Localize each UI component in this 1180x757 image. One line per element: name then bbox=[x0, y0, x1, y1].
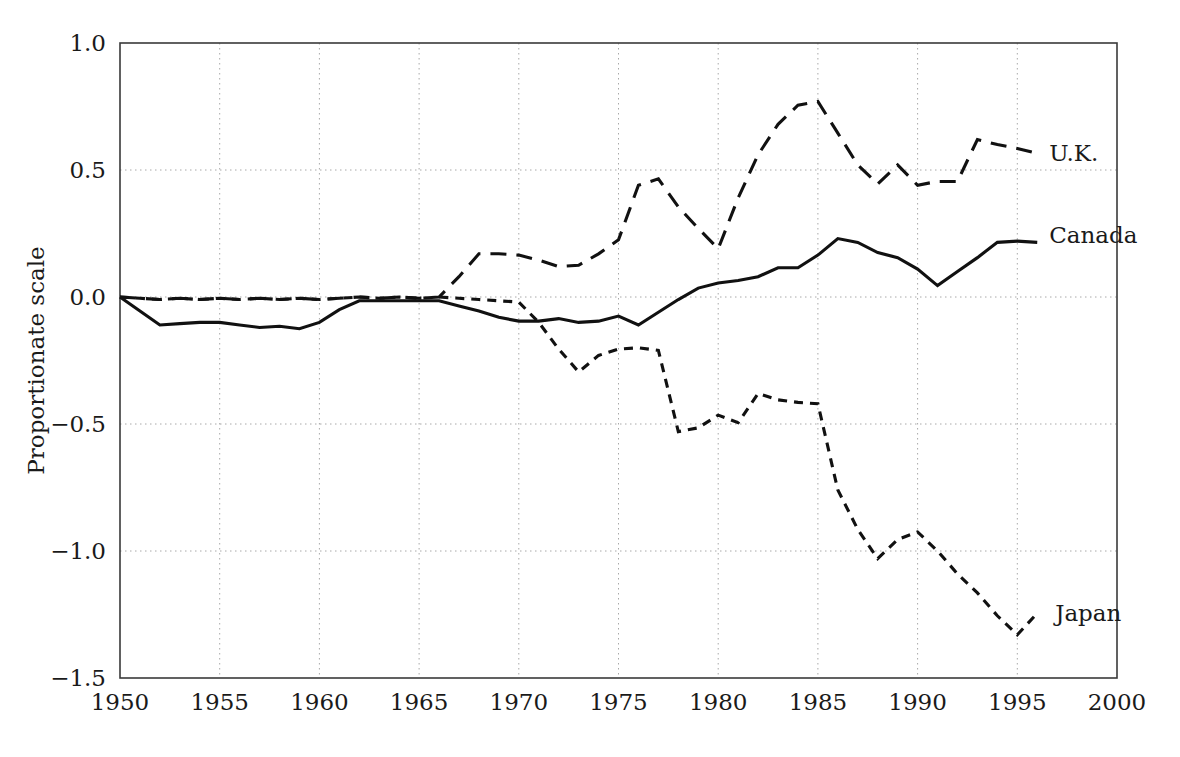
x-tick-label: 1980 bbox=[689, 689, 748, 715]
x-tick-label: 1950 bbox=[91, 689, 150, 715]
x-tick-label: 1960 bbox=[290, 689, 349, 715]
y-tick-label: −1.5 bbox=[50, 665, 106, 691]
series-label-u-k: U.K. bbox=[1049, 140, 1098, 166]
x-tick-label: 2000 bbox=[1088, 689, 1147, 715]
chart-page: 1950195519601965197019751980198519901995… bbox=[0, 0, 1180, 757]
series-line-japan bbox=[120, 297, 1037, 635]
series-line-canada bbox=[120, 239, 1037, 329]
y-tick-label: 0.5 bbox=[69, 157, 106, 183]
x-tick-label: 1975 bbox=[589, 689, 648, 715]
y-tick-label: 0.0 bbox=[69, 284, 106, 310]
x-tick-label: 1955 bbox=[190, 689, 249, 715]
series-line-u-k bbox=[120, 101, 1037, 299]
x-tick-label: 1990 bbox=[888, 689, 947, 715]
x-tick-label: 1965 bbox=[390, 689, 449, 715]
proportionate-scale-line-chart: 1950195519601965197019751980198519901995… bbox=[0, 0, 1180, 757]
series-label-canada: Canada bbox=[1049, 222, 1138, 248]
y-tick-label: −0.5 bbox=[50, 411, 106, 437]
x-tick-label: 1985 bbox=[789, 689, 848, 715]
y-tick-label: 1.0 bbox=[69, 30, 106, 56]
series-label-japan: Japan bbox=[1053, 600, 1121, 626]
y-axis-title: Proportionate scale bbox=[23, 246, 49, 474]
y-tick-label: −1.0 bbox=[50, 538, 106, 564]
x-tick-label: 1970 bbox=[490, 689, 549, 715]
x-tick-label: 1995 bbox=[988, 689, 1047, 715]
